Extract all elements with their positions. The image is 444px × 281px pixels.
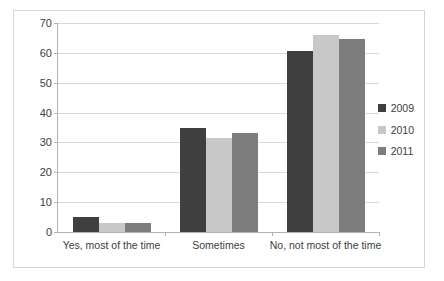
bar-group bbox=[58, 23, 165, 232]
bar-2011 bbox=[125, 223, 151, 232]
x-axis-category-label: No, not most of the time bbox=[266, 239, 386, 252]
y-axis-tick-label: 70 bbox=[40, 18, 52, 29]
legend-item-2011: 2011 bbox=[378, 146, 414, 157]
x-axis-category-label: Sometimes bbox=[159, 239, 279, 252]
bar-2009 bbox=[73, 217, 99, 232]
y-axis-tick-label: 30 bbox=[40, 137, 52, 148]
bar-2009 bbox=[287, 51, 313, 232]
x-axis-tick-mark bbox=[272, 232, 273, 236]
plot-area: 010203040506070 Yes, most of the timeSom… bbox=[57, 23, 379, 233]
legend-label: 2011 bbox=[391, 146, 414, 157]
chart-figure: 010203040506070 Yes, most of the timeSom… bbox=[13, 10, 425, 268]
y-axis-tick-label: 40 bbox=[40, 107, 52, 118]
bar-2009 bbox=[180, 128, 206, 233]
y-axis-tick-label: 60 bbox=[40, 47, 52, 58]
x-axis-tick-mark bbox=[165, 232, 166, 236]
y-axis-tick-label: 0 bbox=[46, 227, 52, 238]
bar-group bbox=[165, 23, 272, 232]
bar-2011 bbox=[339, 39, 365, 232]
bar-2010 bbox=[206, 138, 232, 232]
legend-label: 2010 bbox=[391, 125, 414, 136]
legend-item-2010: 2010 bbox=[378, 125, 414, 136]
bar-2010 bbox=[99, 223, 125, 232]
legend-swatch-icon bbox=[378, 126, 386, 134]
legend-swatch-icon bbox=[378, 104, 386, 112]
y-axis-tick-label: 50 bbox=[40, 77, 52, 88]
legend-item-2009: 2009 bbox=[378, 103, 414, 114]
y-axis-tick-label: 20 bbox=[40, 167, 52, 178]
bars-layer bbox=[58, 23, 379, 232]
bar-group bbox=[272, 23, 379, 232]
bar-2010 bbox=[313, 35, 339, 232]
y-axis-tick-mark bbox=[54, 232, 58, 233]
x-axis-category-label: Yes, most of the time bbox=[52, 239, 172, 252]
legend-label: 2009 bbox=[391, 103, 414, 114]
x-axis-tick-mark bbox=[379, 232, 380, 236]
y-axis-tick-label: 10 bbox=[40, 197, 52, 208]
chart-legend: 200920102011 bbox=[378, 103, 414, 157]
legend-swatch-icon bbox=[378, 147, 386, 155]
bar-2011 bbox=[232, 133, 258, 232]
